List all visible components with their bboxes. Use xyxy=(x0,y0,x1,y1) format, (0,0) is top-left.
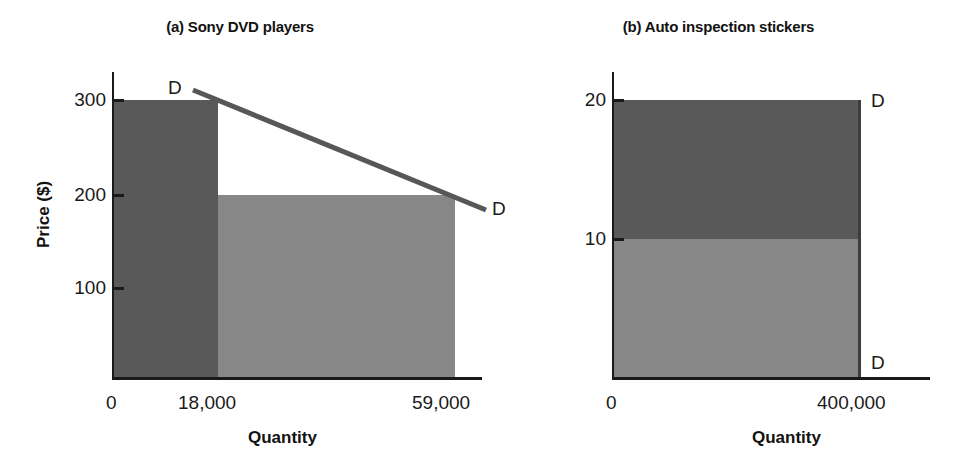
panel-a-x-tick-label-59000: 59,000 xyxy=(412,392,470,414)
panel-a-demand-curve xyxy=(0,0,480,474)
panel-b-y-tick-20 xyxy=(614,99,624,102)
panel-sony-dvd-players: (a) Sony DVD players Price ($) D D 300 2… xyxy=(0,0,480,474)
panel-b-title: (b) Auto inspection stickers xyxy=(480,18,957,35)
panel-a-y-tick-label-100: 100 xyxy=(62,277,106,299)
panel-auto-inspection-stickers: (b) Auto inspection stickers Price ($) D… xyxy=(480,0,957,474)
panel-a-x-tick-label-0: 0 xyxy=(106,392,117,414)
panel-a-demand-label-left: D xyxy=(168,77,182,99)
panel-a-y-tick-label-300: 300 xyxy=(62,89,106,111)
panel-a-y-tick-100 xyxy=(114,287,124,290)
panel-b-revenue-area-price-10-to-20 xyxy=(614,100,860,239)
panel-a-y-tick-200 xyxy=(114,194,124,197)
panel-b-demand-label-top: D xyxy=(871,90,885,112)
panel-b-x-axis-title: Quantity xyxy=(752,428,821,448)
panel-b-y-tick-10 xyxy=(614,238,624,241)
panel-b-x-tick-label-0: 0 xyxy=(606,392,617,414)
panel-b-y-axis xyxy=(612,72,614,379)
panel-b-y-tick-label-20: 20 xyxy=(566,89,606,111)
panel-a-y-axis xyxy=(112,72,114,379)
panel-a-y-tick-300 xyxy=(114,99,124,102)
figure-two-panel-elasticity: (a) Sony DVD players Price ($) D D 300 2… xyxy=(0,0,957,474)
panel-a-x-axis xyxy=(112,377,482,380)
panel-b-demand-label-bottom: D xyxy=(871,352,885,374)
panel-b-revenue-area-price-10 xyxy=(614,239,860,377)
panel-a-x-axis-title: Quantity xyxy=(248,428,317,448)
panel-a-x-tick-label-18000: 18,000 xyxy=(178,392,236,414)
panel-b-x-tick-label-400000: 400,000 xyxy=(817,392,886,414)
panel-b-demand-curve xyxy=(858,100,861,377)
panel-b-x-axis xyxy=(612,377,930,380)
panel-a-y-tick-label-200: 200 xyxy=(62,184,106,206)
panel-b-y-tick-label-10: 10 xyxy=(566,228,606,250)
